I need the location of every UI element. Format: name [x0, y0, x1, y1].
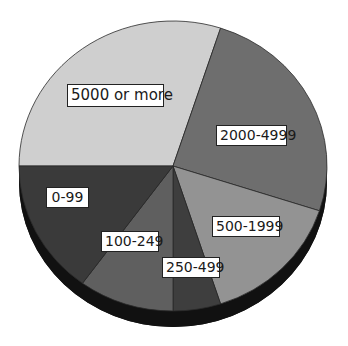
label-0-99: 0-99	[46, 187, 89, 208]
pie-chart	[0, 0, 348, 346]
label-500-1999: 500-1999	[212, 216, 280, 237]
label-250-499: 250-499	[162, 257, 220, 278]
label-100-249: 100-249	[101, 231, 159, 252]
label-5000-or-more: 5000 or more	[67, 84, 164, 107]
label-2000-4999: 2000-4999	[216, 125, 287, 146]
